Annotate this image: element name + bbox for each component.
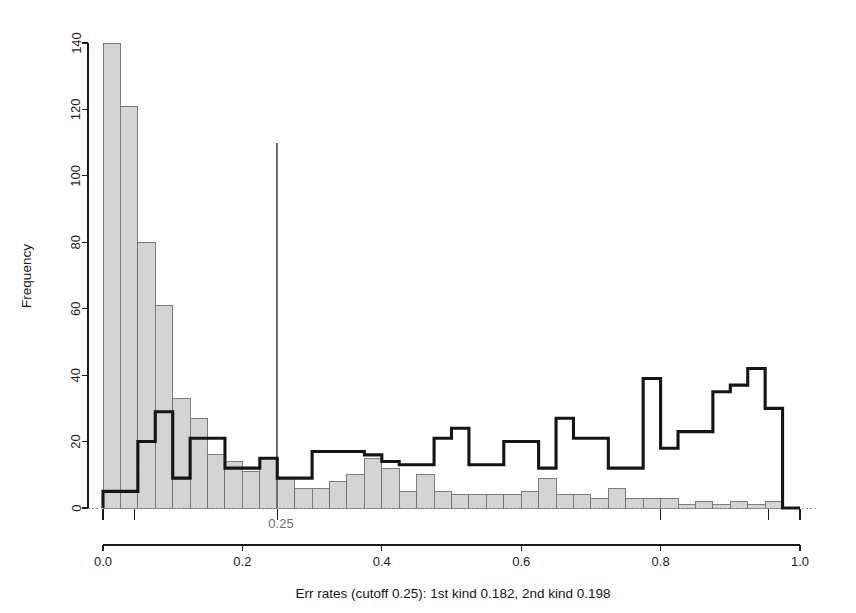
- histogram-bar: [208, 455, 225, 508]
- histogram-bar: [399, 491, 416, 508]
- histogram-bar: [138, 242, 155, 508]
- histogram-bar: [608, 488, 625, 508]
- x-tick-label: 0.4: [373, 554, 391, 569]
- histogram-bar: [120, 106, 137, 508]
- histogram-bar: [452, 495, 469, 508]
- histogram-bar: [103, 43, 120, 508]
- y-tick-label: 60: [69, 301, 84, 315]
- x-tick-label: 0.6: [512, 554, 530, 569]
- y-tick-label: 120: [69, 99, 84, 121]
- histogram-bar: [748, 505, 765, 508]
- y-tick-label: 140: [69, 32, 84, 54]
- x-tick-label: 0.2: [233, 554, 251, 569]
- x-tick-label: 0.8: [652, 554, 670, 569]
- histogram-bar: [155, 305, 172, 508]
- histogram-bar: [434, 491, 451, 508]
- x-axis-title: Err rates (cutoff 0.25): 1st kind 0.182,…: [296, 586, 611, 601]
- histogram-bar: [295, 488, 312, 508]
- histogram-bar: [539, 478, 556, 508]
- histogram-bar: [260, 458, 277, 508]
- histogram-bar: [521, 491, 538, 508]
- y-axis-title: Frequency: [19, 244, 34, 308]
- y-tick-label: 40: [69, 368, 84, 382]
- histogram-bar: [573, 495, 590, 508]
- histogram-bar: [643, 498, 660, 508]
- y-tick-label: 80: [69, 235, 84, 249]
- histogram-bar: [330, 481, 347, 508]
- histogram-bar: [364, 458, 381, 508]
- histogram-bar: [626, 498, 643, 508]
- x-axis: 0.00.20.40.60.81.0: [94, 509, 809, 569]
- histogram-bar: [695, 501, 712, 508]
- histogram-bar: [242, 471, 259, 508]
- histogram-bar: [765, 501, 782, 508]
- y-tick-label: 20: [69, 434, 84, 448]
- y-axis: 020406080100120140: [69, 32, 89, 511]
- histogram-bar: [486, 495, 503, 508]
- histogram-bar: [504, 495, 521, 508]
- histogram-bar: [417, 475, 434, 508]
- histogram-bar: [190, 418, 207, 508]
- histogram-bar: [556, 495, 573, 508]
- histogram-bar: [312, 488, 329, 508]
- histogram-bar: [382, 468, 399, 508]
- cutoff-value-label: 0.25: [268, 516, 293, 531]
- y-tick-label: 100: [69, 165, 84, 187]
- histogram-figure: 020406080100120140 0.00.20.40.60.81.0 0.…: [0, 0, 856, 613]
- histogram-bar: [591, 498, 608, 508]
- histogram-bar: [730, 501, 747, 508]
- histogram-bar: [713, 505, 730, 508]
- x-tick-label: 1.0: [791, 554, 809, 569]
- histogram-bar: [347, 475, 364, 508]
- histogram-bar: [469, 495, 486, 508]
- histogram-bar: [277, 478, 294, 508]
- chart-canvas: 020406080100120140 0.00.20.40.60.81.0 0.…: [0, 0, 856, 613]
- x-tick-label: 0.0: [94, 554, 112, 569]
- histogram-bar: [661, 498, 678, 508]
- y-tick-label: 0: [69, 504, 84, 511]
- histogram-bar: [173, 398, 190, 508]
- histogram-bar: [678, 505, 695, 508]
